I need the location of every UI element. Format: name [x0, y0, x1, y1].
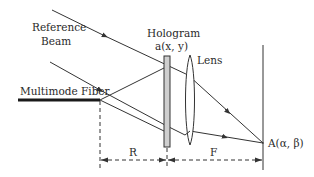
label-distance-f: F	[210, 146, 217, 158]
label-reference: Reference	[32, 21, 86, 33]
hologram-setup-diagram: Reference Beam Hologram a(x, y) Lens Mul…	[0, 0, 314, 177]
fiber-output-rays	[100, 67, 263, 143]
label-distance-r: R	[129, 146, 138, 158]
label-multimode-fiber: Multimode Fiber	[20, 85, 111, 97]
label-hologram: Hologram	[147, 27, 200, 39]
label-beam: Beam	[41, 35, 71, 47]
dimension-lines	[100, 101, 262, 168]
hologram-plate	[164, 56, 170, 147]
point-a-marker	[262, 142, 264, 144]
label-point-a: A(α, β)	[267, 137, 304, 149]
label-hologram-function: a(x, y)	[155, 40, 188, 52]
label-lens: Lens	[197, 54, 222, 66]
